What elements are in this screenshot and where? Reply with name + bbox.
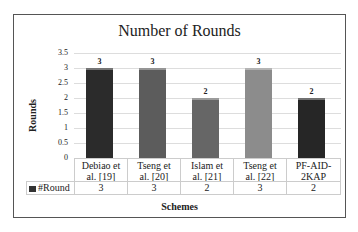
bar-value-label: 3 — [86, 57, 113, 66]
table-value: 3 — [74, 181, 128, 195]
bar-tseng-22 — [245, 68, 272, 158]
bar-islam — [192, 98, 219, 158]
x-axis-label: Schemes — [14, 201, 345, 212]
legend-swatch-icon — [29, 186, 36, 192]
table-category: Islam etal. [21] — [180, 158, 234, 182]
bar-value-label: 2 — [298, 87, 325, 96]
bar-value-label: 2 — [192, 87, 219, 96]
y-tick: 0.5 — [44, 138, 68, 147]
bar-value-label: 3 — [245, 57, 272, 66]
chart-title: Number of Rounds — [14, 22, 345, 40]
gridline — [74, 83, 341, 84]
y-tick: 1 — [44, 123, 68, 132]
y-tick: 1.5 — [44, 108, 68, 117]
chart-frame: Number of Rounds Rounds 3.5 3 2.5 2 1.5 … — [13, 14, 346, 218]
table-value: 2 — [286, 181, 341, 195]
table-legend: #Round — [26, 181, 75, 195]
y-tick: 3 — [44, 63, 68, 72]
gridline — [74, 53, 341, 54]
table-category: Debiao etal. [19] — [74, 158, 128, 182]
y-tick: 2 — [44, 93, 68, 102]
bar-tseng-20 — [139, 68, 166, 158]
y-tick: 3.5 — [44, 48, 68, 57]
bar-debiao — [86, 68, 113, 158]
y-tick: 2.5 — [44, 78, 68, 87]
table-value: 2 — [180, 181, 234, 195]
table-category: PF-AID-2KAP — [286, 158, 341, 182]
gridline — [74, 68, 341, 69]
table-value: 3 — [127, 181, 181, 195]
table-category: Tseng etal. [22] — [233, 158, 287, 182]
bar-value-label: 3 — [139, 57, 166, 66]
y-tick: 0 — [44, 153, 68, 162]
table-category: Tseng etal. [20] — [127, 158, 181, 182]
table-value: 3 — [233, 181, 287, 195]
bar-pf-aid-2kap — [298, 98, 325, 158]
y-axis-label: Rounds — [27, 96, 38, 136]
